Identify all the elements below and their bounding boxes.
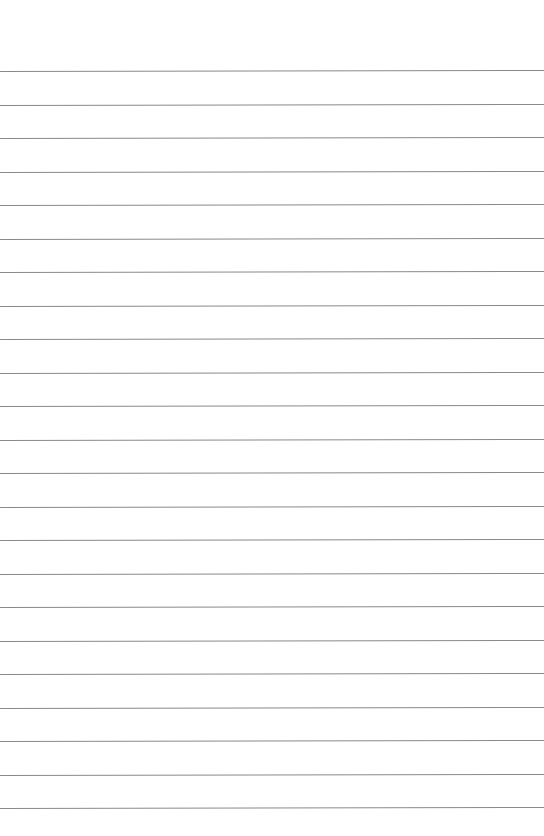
ruled-line — [0, 405, 544, 407]
ruled-line — [0, 171, 544, 173]
ruled-line — [0, 606, 544, 608]
ruled-line — [0, 573, 544, 575]
lined-paper-page — [0, 0, 544, 836]
ruled-line — [0, 472, 544, 474]
ruled-line — [0, 338, 544, 340]
ruled-line — [0, 439, 544, 441]
ruled-line — [0, 137, 544, 139]
ruled-line — [0, 807, 544, 809]
ruled-line — [0, 104, 544, 106]
ruled-line — [0, 539, 544, 541]
ruled-line — [0, 774, 544, 776]
ruled-line — [0, 238, 544, 240]
ruled-line — [0, 640, 544, 642]
ruled-line — [0, 70, 544, 72]
ruled-line — [0, 305, 544, 307]
ruled-line — [0, 204, 544, 206]
ruled-line — [0, 372, 544, 374]
ruled-line — [0, 707, 544, 709]
ruled-line — [0, 673, 544, 675]
ruled-line — [0, 271, 544, 273]
ruled-line — [0, 506, 544, 508]
ruled-line — [0, 740, 544, 742]
